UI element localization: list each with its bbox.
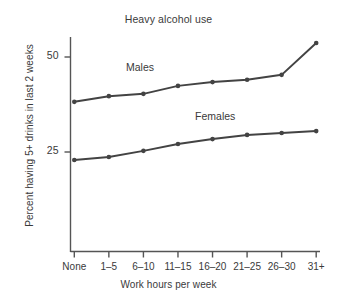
data-point [141,149,146,154]
data-point [245,133,250,138]
data-point [210,137,215,142]
data-point [176,84,181,89]
data-point [107,155,112,160]
x-tick-label: 21–25 [233,261,261,272]
x-tick-label: 6–10 [132,261,154,272]
y-tick-label: 25 [37,144,59,156]
y-axis-ticks [65,57,71,152]
x-tick-label: 31+ [308,261,325,272]
data-point [176,142,181,147]
data-point [72,100,77,105]
y-tick-label: 50 [37,49,59,61]
chart-figure: Heavy alcohol use Percent having 5+ drin… [0,0,337,302]
data-point [245,78,250,83]
series-line-males [74,43,316,102]
data-point [279,73,284,78]
x-axis-ticks [74,252,316,258]
x-tick-label: 1–5 [101,261,118,272]
data-point [210,80,215,85]
x-tick-label: 16–20 [199,261,227,272]
x-tick-label: 26–30 [268,261,296,272]
x-tick-label: None [62,261,86,272]
data-series-group [72,41,319,163]
data-point [107,94,112,99]
series-label-females: Females [195,110,235,122]
x-tick-label: 11–15 [164,261,191,272]
axes [71,37,321,252]
data-point [141,92,146,97]
data-point [279,131,284,136]
data-point [72,158,77,163]
data-point [314,129,319,134]
data-point [314,41,319,46]
series-label-males: Males [126,61,154,73]
